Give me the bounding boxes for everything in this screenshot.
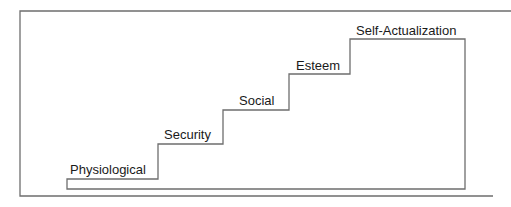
step-label-self-actualization: Self-Actualization [356, 24, 456, 37]
step-label-social: Social [239, 94, 274, 107]
step-label-esteem: Esteem [296, 59, 340, 72]
step-label-physiological: Physiological [70, 163, 146, 176]
step-label-security: Security [164, 128, 211, 141]
